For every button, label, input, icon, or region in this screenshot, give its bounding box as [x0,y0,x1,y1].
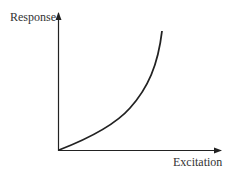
response-excitation-diagram [0,0,235,174]
y-axis-label: Response [10,10,56,25]
response-curve [59,31,162,150]
x-axis-label: Excitation [173,155,222,170]
